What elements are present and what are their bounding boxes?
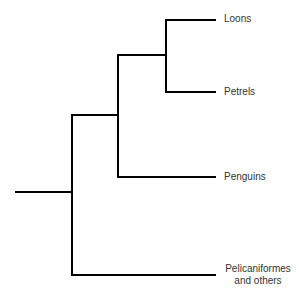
taxon-label-pelicaniformes-line2: and others	[222, 275, 294, 287]
taxon-label-pelicaniformes: Pelicaniformes and others	[222, 263, 294, 287]
tree-branches	[0, 0, 299, 292]
taxon-label-loons: Loons	[224, 13, 251, 25]
taxon-label-pelicaniformes-line1: Pelicaniformes	[222, 263, 294, 275]
taxon-label-penguins: Penguins	[224, 171, 266, 183]
taxon-label-petrels: Petrels	[224, 86, 255, 98]
